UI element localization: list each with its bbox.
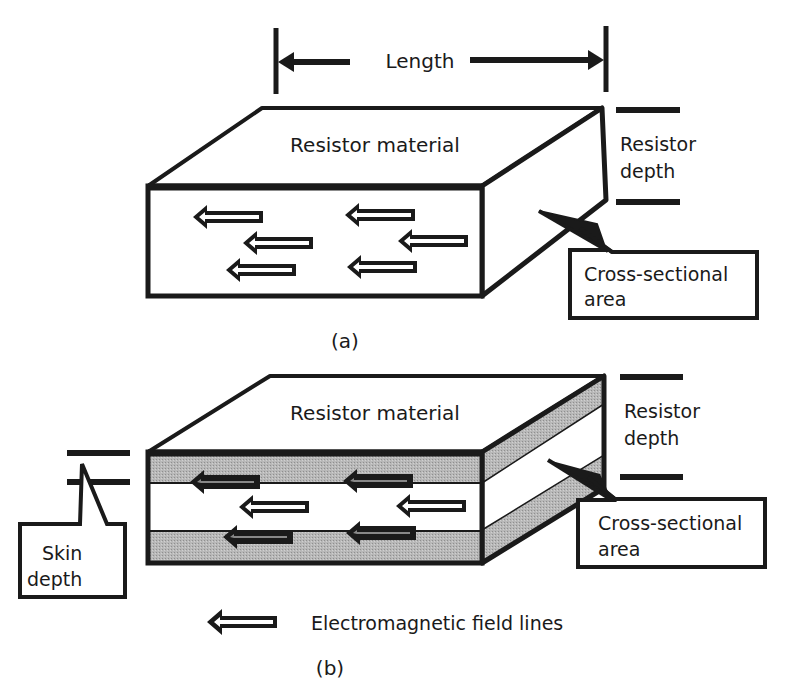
skin-depth-line2: depth	[27, 568, 82, 590]
figure-a: Length Resistor material Resistor depth	[148, 26, 757, 353]
cross-section-line2: area	[584, 288, 626, 310]
figure-b: Resistor material Resistor depth Cross-s…	[20, 376, 765, 680]
resistor-box-a: Resistor material	[148, 108, 606, 296]
cross-section-line1: Cross-sectional	[598, 512, 742, 534]
resistor-depth-line2: depth	[624, 427, 679, 449]
cross-section-callout-a: Cross-sectional area	[539, 211, 757, 318]
arrowhead-right-icon	[588, 50, 604, 70]
skin-effect-diagram: Length Resistor material Resistor depth	[0, 0, 785, 695]
legend-label: Electromagnetic field lines	[311, 612, 563, 634]
resistor-depth-line1: Resistor	[624, 400, 700, 422]
resistor-depth-line1: Resistor	[620, 133, 696, 155]
resistor-material-label: Resistor material	[290, 401, 460, 425]
skin-layer-bottom	[148, 531, 482, 563]
resistor-depth-line2: depth	[620, 160, 675, 182]
caption-b: (b)	[316, 656, 344, 680]
skin-depth-line1: Skin	[42, 542, 82, 564]
length-dimension: Length	[276, 26, 606, 94]
caption-a: (a)	[331, 329, 359, 353]
resistor-material-label: Resistor material	[290, 133, 460, 157]
cross-section-line1: Cross-sectional	[584, 263, 728, 285]
hollow-left-arrow-icon	[207, 609, 277, 635]
length-label: Length	[386, 49, 455, 73]
legend: Electromagnetic field lines	[207, 609, 563, 635]
skin-depth-callout: Skin depth	[20, 453, 130, 597]
cross-section-line2: area	[598, 538, 640, 560]
resistor-box-b: Resistor material	[148, 376, 604, 563]
resistor-depth-a: Resistor depth	[616, 110, 696, 202]
arrowhead-left-icon	[278, 52, 294, 72]
resistor-depth-b: Resistor depth	[620, 377, 700, 477]
